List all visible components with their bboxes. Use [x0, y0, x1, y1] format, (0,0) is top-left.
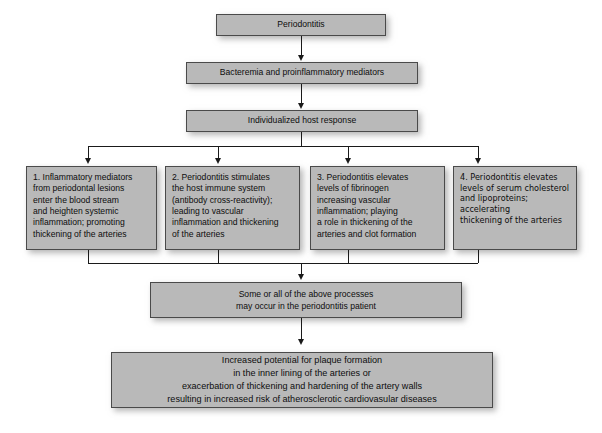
arrowhead-to-outcome	[298, 339, 304, 345]
arrowhead-to-host-response	[298, 103, 304, 109]
connector-periodontitis-to-bacteremia	[301, 36, 302, 56]
connector-merge-bus	[88, 263, 478, 264]
node-mechanism-2-label: 2. Periodontitis stimulates the host imm…	[172, 172, 295, 240]
connector-fanout-bus	[88, 146, 478, 147]
node-some-or-all: Some or all of the above processes may o…	[150, 282, 462, 318]
node-some-or-all-label: Some or all of the above processes may o…	[151, 288, 461, 312]
node-mechanism-1: 1. Inflammatory mediators from periodont…	[26, 166, 157, 250]
arrowhead-to-bacteremia	[298, 55, 304, 61]
connector-merge-2	[218, 250, 219, 263]
node-periodontitis: Periodontitis	[216, 14, 386, 36]
flowchart-canvas: Periodontitis Bacteremia and proinflamma…	[0, 0, 602, 433]
node-mechanism-4-label: 4. Periodontitis elevates levels of seru…	[460, 172, 572, 225]
node-host-response: Individualized host response	[186, 110, 418, 132]
arrowhead-to-mechanism-2	[215, 158, 221, 164]
node-mechanism-3: 3. Periodontitis elevates levels of fibr…	[310, 166, 445, 250]
node-outcome: Increased potential for plaque formation…	[111, 352, 493, 408]
connector-bacteremia-to-host-response	[301, 84, 302, 104]
arrowhead-to-mechanism-1	[85, 158, 91, 164]
connector-merge-3	[348, 250, 349, 263]
arrowhead-to-mechanism-4	[475, 158, 481, 164]
arrowhead-to-mechanism-3	[345, 158, 351, 164]
node-bacteremia: Bacteremia and proinflammatory mediators	[186, 62, 418, 84]
connector-some-or-all-to-outcome	[301, 318, 302, 340]
node-host-response-label: Individualized host response	[187, 115, 417, 126]
node-periodontitis-label: Periodontitis	[217, 19, 385, 30]
node-bacteremia-label: Bacteremia and proinflammatory mediators	[187, 67, 417, 78]
connector-merge-1	[88, 250, 89, 263]
connector-merge-4	[478, 250, 479, 263]
node-mechanism-2: 2. Periodontitis stimulates the host imm…	[165, 166, 300, 250]
node-outcome-label: Increased potential for plaque formation…	[112, 354, 492, 406]
connector-host-response-stem	[301, 132, 302, 146]
arrowhead-to-some-or-all	[298, 274, 304, 280]
node-mechanism-4: 4. Periodontitis elevates levels of seru…	[453, 166, 577, 250]
node-mechanism-1-label: 1. Inflammatory mediators from periodont…	[33, 172, 152, 240]
node-mechanism-3-label: 3. Periodontitis elevates levels of fibr…	[317, 172, 440, 240]
